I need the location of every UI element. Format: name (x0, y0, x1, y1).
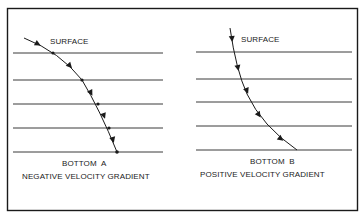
bottom-label-a: BOTTOM A (62, 159, 107, 168)
ray-path-b (230, 28, 297, 150)
panel-b: SURFACE BOTTOM B POSITIVE VELOCITY GRADI… (196, 28, 352, 179)
intersection-dot (107, 126, 110, 129)
caption-b: POSITIVE VELOCITY GRADIENT (200, 170, 325, 179)
arrow-icon (34, 40, 42, 48)
arrow-icon (234, 64, 241, 71)
caption-a: NEGATIVE VELOCITY GRADIENT (22, 172, 150, 181)
arrow-icon (66, 62, 74, 70)
surface-label-b: SURFACE (241, 35, 280, 44)
intersection-dot (115, 150, 119, 154)
arrow-icon (229, 36, 236, 43)
panel-a: SURFACE BOTTOM A NEGATIVE VELOCITY GRADI… (13, 37, 163, 181)
bottom-label-b: BOTTOM B (250, 157, 295, 166)
layer-lines-a (13, 53, 163, 152)
intersection-dot (96, 102, 99, 105)
ray-path-a (24, 38, 117, 152)
velocity-gradient-diagram: SURFACE BOTTOM A NEGATIVE VELOCITY GRADI… (0, 0, 364, 218)
layer-lines-b (196, 52, 352, 150)
intersection-dot (80, 78, 83, 81)
intersection-dot (51, 51, 54, 54)
ray-points-a (51, 51, 118, 153)
arrow-icon (277, 135, 285, 143)
surface-label-a: SURFACE (50, 37, 89, 46)
